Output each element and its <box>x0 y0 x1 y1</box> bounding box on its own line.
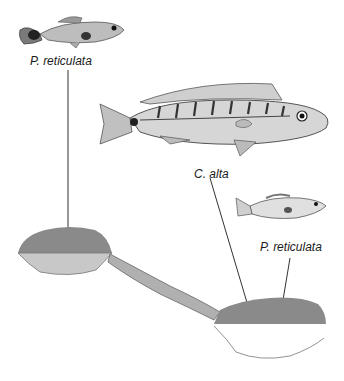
downstream-leader-line <box>283 258 290 300</box>
predator-leader-line <box>210 178 248 306</box>
stream-diagram: P. reticulata C. alta P. reticulata <box>0 0 344 381</box>
rapids <box>108 254 220 320</box>
upstream-species-label: P. reticulata <box>30 54 92 68</box>
upstream-pool <box>18 227 112 275</box>
downstream-guppy-illustration <box>236 194 326 218</box>
upstream-guppy-illustration <box>20 17 125 48</box>
predator-fish-illustration <box>100 83 328 156</box>
downstream-pool <box>214 298 326 359</box>
predator-species-label: C. alta <box>194 167 229 181</box>
downstream-species-label: P. reticulata <box>260 240 322 254</box>
